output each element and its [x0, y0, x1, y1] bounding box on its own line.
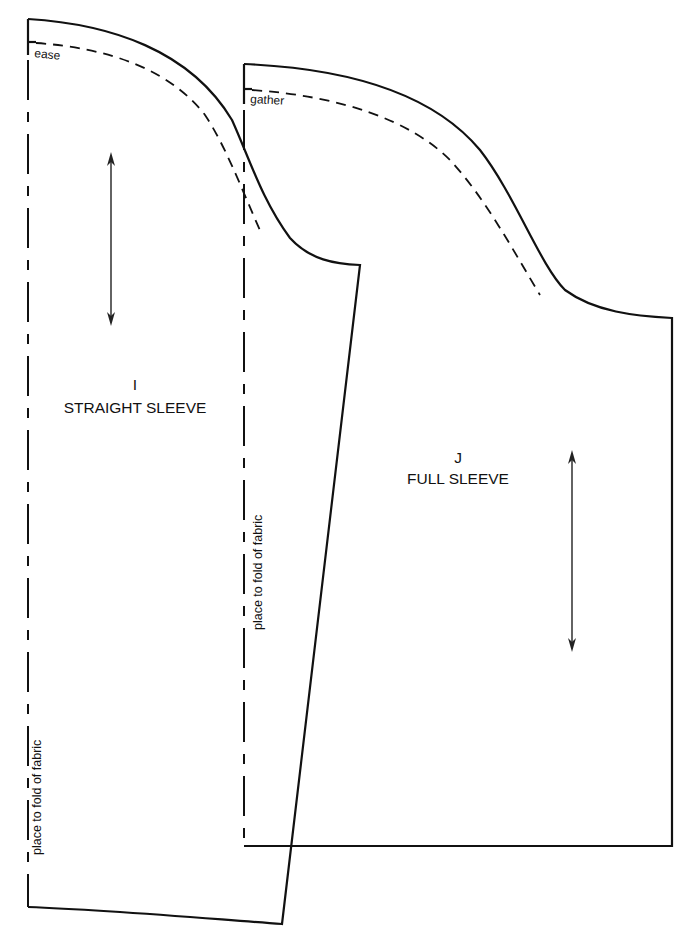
sleeve-pattern-diagram: ease I STRAIGHT SLEEVE place to fold of … — [0, 0, 692, 942]
piece-straight-sleeve: ease I STRAIGHT SLEEVE place to fold of … — [28, 19, 360, 924]
straight-sleeve-outline — [28, 19, 360, 924]
full-sleeve-id: J — [454, 449, 462, 466]
ease-label: ease — [34, 46, 62, 63]
full-sleeve-fold-label: place to fold of fabric — [251, 515, 265, 630]
full-sleeve-title: FULL SLEEVE — [407, 470, 509, 487]
straight-sleeve-grainline — [107, 152, 115, 326]
full-sleeve-grainline — [568, 450, 576, 652]
straight-sleeve-ease-line — [36, 43, 262, 235]
straight-sleeve-id: I — [133, 376, 137, 393]
piece-full-sleeve: gather J FULL SLEEVE place to fold of fa… — [244, 64, 672, 846]
straight-sleeve-title: STRAIGHT SLEEVE — [64, 399, 207, 416]
full-sleeve-gather-line — [252, 90, 540, 295]
gather-label: gather — [250, 92, 285, 108]
straight-sleeve-fold-label: place to fold of fabric — [30, 740, 44, 855]
